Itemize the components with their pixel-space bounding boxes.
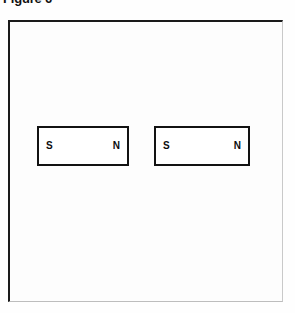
figure-title: Figure 6 <box>3 0 52 6</box>
left-magnet-north-pole-label: N <box>113 141 120 151</box>
right-magnet: S N <box>154 126 250 166</box>
right-magnet-south-pole-label: S <box>163 141 170 151</box>
left-magnet: S N <box>37 126 129 166</box>
left-magnet-south-pole-label: S <box>46 141 53 151</box>
figure-page: Figure 6 S N S N <box>0 0 295 313</box>
right-magnet-north-pole-label: N <box>234 141 241 151</box>
